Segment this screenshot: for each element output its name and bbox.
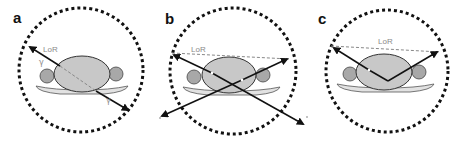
gamma-label-1-a: γ xyxy=(39,58,44,67)
panel-c: LoR xyxy=(326,10,448,132)
patient-arm-left-b xyxy=(187,70,201,84)
diagram-canvas: LoR γ γ LoR xyxy=(0,0,467,142)
patient-body-a xyxy=(54,56,110,92)
pet-coincidence-figure: a b c LoR γ γ xyxy=(0,0,467,142)
annihilation-point-2-b xyxy=(241,79,244,82)
annihilation-point-1-b xyxy=(211,72,214,75)
gamma-arrow-2-a xyxy=(96,91,128,110)
lor-label-a: LoR xyxy=(43,45,58,54)
gamma-arrow-2b-b xyxy=(162,80,242,116)
panel-b: LoR xyxy=(162,8,303,134)
gamma-label-2-a: γ xyxy=(106,96,111,105)
patient-arm-right-a xyxy=(109,67,123,81)
patient-arm-left-a xyxy=(40,69,54,83)
lor-line-c xyxy=(331,46,440,52)
lor-label-b: LoR xyxy=(191,45,206,54)
stray-dot-2 xyxy=(306,116,308,118)
gamma-arrow-1b-b xyxy=(212,73,303,124)
patient-arm-left-c xyxy=(343,67,357,81)
patient-arm-right-c xyxy=(412,65,426,79)
panel-a: LoR γ γ xyxy=(19,8,143,132)
patient-body-b xyxy=(202,57,256,93)
annihilation-point-c xyxy=(368,69,371,72)
lor-label-c: LoR xyxy=(378,37,393,46)
stray-dot-1 xyxy=(159,117,161,119)
